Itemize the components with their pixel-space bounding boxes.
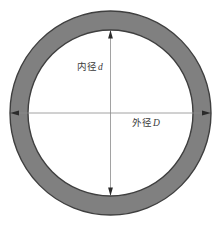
outer-diameter-symbol: D bbox=[152, 118, 160, 128]
annulus-svg bbox=[0, 0, 220, 226]
inner-diameter-symbol: d bbox=[97, 62, 102, 72]
outer-diameter-label: 外径D bbox=[132, 119, 160, 129]
inner-diameter-label-cn: 内径 bbox=[77, 62, 97, 72]
annulus-diagram: 内径d 外径D bbox=[0, 0, 220, 226]
outer-diameter-label-cn: 外径 bbox=[132, 118, 152, 128]
inner-diameter-label: 内径d bbox=[77, 63, 103, 73]
